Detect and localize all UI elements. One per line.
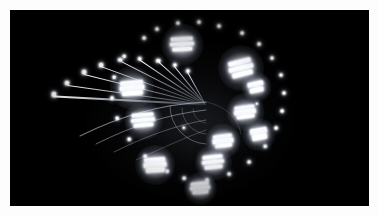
gondola-4-bar-2: [213, 138, 233, 143]
gondola-12: [171, 38, 194, 51]
gondola-10-bar-2: [249, 86, 263, 93]
gondola-3: [250, 129, 268, 140]
gondola-6-bars: [190, 182, 210, 195]
gondola-8-bar-3: [134, 122, 153, 127]
gondola-4: [213, 135, 233, 147]
gondola-6: [191, 183, 210, 194]
gondola-6-bar-1: [191, 182, 208, 186]
gondola-12-glow: [161, 23, 203, 65]
gondola-12-bar-3: [173, 47, 192, 51]
gondola-5-bar-3: [205, 164, 222, 169]
gondola-5-bar-2: [202, 159, 223, 165]
photograph-frame: Long exposure night photograph of an ill…: [0, 0, 379, 217]
gondola-4-bars: [212, 134, 233, 148]
gondola-2-bar-3: [237, 114, 254, 119]
gondola-10: [248, 82, 265, 92]
gondola-5-bars: [202, 154, 224, 169]
gondola-9-bar-2: [120, 85, 144, 91]
gondola-12-bar-2: [170, 42, 193, 47]
gondola-8: [132, 114, 155, 127]
gondola-2-bars: [234, 105, 256, 120]
gondola-7: [144, 158, 166, 172]
gondola-9: [120, 81, 144, 95]
gondola-4-bar-1: [213, 134, 231, 139]
gondola-1: [229, 60, 253, 76]
gondola-8-bar-2: [131, 117, 154, 122]
gondola-2-glow: [226, 93, 264, 131]
gondola-1-bars: [227, 57, 254, 78]
gondola-7-glow: [135, 145, 175, 185]
gondola-7-bar-1: [145, 157, 165, 162]
photograph-canvas: [10, 10, 369, 206]
gondola-10-bars: [247, 80, 266, 93]
gondola-3-glow: [243, 118, 276, 151]
gondola-6-glow: [184, 172, 217, 205]
gondola-3-bar-1: [250, 127, 267, 135]
gondola-4-bar-3: [215, 143, 231, 148]
gondola-12-bars: [170, 37, 194, 51]
gondola-1-bar-2: [229, 63, 253, 73]
gondola-5: [203, 156, 224, 169]
gondola-3-bars: [249, 127, 269, 141]
gondola-2-bar-2: [234, 109, 255, 115]
gondola-1-bar-1: [229, 58, 251, 67]
gondola-8-bars: [131, 113, 155, 128]
gondola-1-glow: [218, 45, 264, 91]
gondola-4-glow: [206, 124, 241, 159]
gondola-7-bars: [144, 157, 167, 173]
gondola-12-bar-1: [171, 37, 192, 41]
gondola-5-bar-1: [203, 155, 222, 160]
gondola-3-bar-2: [252, 133, 267, 140]
gondola-10-glow: [241, 72, 271, 102]
gondola-7-bar-3: [146, 168, 164, 173]
gondola-9-glow: [110, 66, 154, 110]
gondola-10-bar-1: [247, 81, 263, 88]
gondola-9-bars: [119, 80, 144, 96]
gondola-6-bar-2: [190, 186, 209, 190]
gondola-7-bar-2: [144, 162, 166, 167]
gondola-light-layer: [10, 10, 369, 206]
gondola-2: [235, 106, 256, 118]
gondola-9-bar-3: [123, 90, 142, 95]
gondola-6-bar-3: [193, 190, 208, 194]
gondola-1-bar-3: [233, 69, 253, 78]
gondola-9-bar-1: [121, 80, 143, 86]
gondola-5-glow: [195, 144, 232, 181]
gondola-2-bar-1: [235, 105, 254, 111]
gondola-8-bar-1: [132, 113, 153, 118]
gondola-8-glow: [124, 101, 163, 140]
